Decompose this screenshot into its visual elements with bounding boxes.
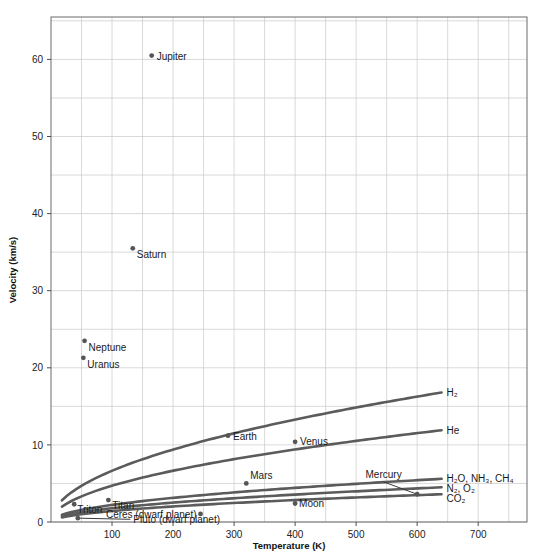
data-point-label-mercury: Mercury [366,469,402,480]
y-axis-title: Velocity (km/s) [7,237,18,304]
gas-label-h2: H₂ [446,387,457,398]
y-tick-label: 10 [32,440,44,451]
data-point-label-moon: Moon [299,498,324,509]
data-point-label-uranus: Uranus [87,359,119,370]
y-tick-label: 60 [32,54,44,65]
x-tick-label: 300 [226,529,243,540]
data-point-triton [72,502,77,507]
data-point-label-mars: Mars [250,470,272,481]
x-tick-label: 200 [165,529,182,540]
y-tick-label: 40 [32,208,44,219]
data-point-moon [293,501,298,506]
x-tick-label: 700 [470,529,487,540]
y-tick-label: 30 [32,285,44,296]
data-point-uranus [81,355,86,360]
data-point-label-venus: Venus [300,436,328,447]
data-point-label-saturn: Saturn [137,249,166,260]
y-tick-label: 50 [32,131,44,142]
data-point-neptune [82,338,87,343]
velocity-temperature-chart: JupiterSaturnNeptuneUranusEarthVenusMars… [0,0,540,554]
data-point-pluto [75,516,80,521]
x-axis-title: Temperature (K) [253,540,326,551]
data-point-venus [293,439,298,444]
data-point-saturn [130,246,135,251]
data-point-jupiter [149,53,154,58]
data-point-label-pluto: Pluto (dwarf planet) [133,514,220,525]
gas-label-co2: CO₂ [446,493,465,504]
data-point-label-earth: Earth [233,431,257,442]
chart-svg: JupiterSaturnNeptuneUranusEarthVenusMars… [0,0,540,554]
x-tick-label: 100 [104,529,121,540]
x-tick-label: 600 [409,529,426,540]
gas-label-h2o: H₂O, NH₃, CH₄ [446,473,513,484]
x-tick-label: 500 [348,529,365,540]
gas-label-he: He [446,425,459,436]
y-tick-label: 0 [37,517,43,528]
data-point-earth [226,433,231,438]
plot-background [51,17,527,522]
x-tick-label: 400 [287,529,304,540]
data-point-label-neptune: Neptune [89,342,127,353]
data-point-label-triton: Triton [77,504,102,515]
data-point-mercury [415,492,420,497]
y-tick-label: 20 [32,362,44,373]
data-point-label-jupiter: Jupiter [157,51,188,62]
data-point-mars [244,481,249,486]
data-point-titan [106,498,111,503]
